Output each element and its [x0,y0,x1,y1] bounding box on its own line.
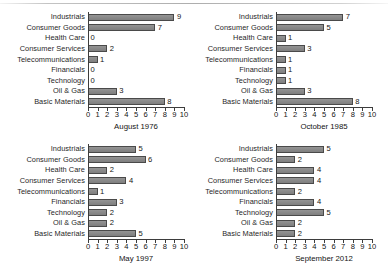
y-axis-line [276,12,277,107]
bar-row: Telecommunications2 [276,186,372,197]
x-tick-label: 9 [172,242,176,251]
category-label: Oil & Gas [53,219,85,227]
bar-value-label: 1 [288,66,292,74]
bar [276,14,343,21]
chart-panel-september-2012: Industrials5Consumer Goods2Health Care4C… [194,132,388,265]
bar [276,230,295,237]
category-label: Basic Materials [222,230,273,238]
bar-value-label: 4 [317,166,321,174]
y-axis-line [276,144,277,239]
bar-row: Health Care4 [276,165,372,176]
bar [88,220,107,227]
x-tick-label: 1 [95,110,99,119]
bar-row: Consumer Goods2 [276,155,372,166]
bar-value-label: 1 [288,34,292,42]
category-label: Financials [51,198,85,206]
bar [88,230,136,237]
category-label: Health Care [45,166,85,174]
x-tick-label: 1 [95,242,99,251]
bar-row: Health Care0 [88,33,184,44]
bar-value-label: 0 [91,66,95,74]
bar [88,98,165,105]
category-label: Consumer Goods [26,156,85,164]
bar [276,98,353,105]
bar [276,188,295,195]
bar [88,56,98,63]
bar-value-label: 2 [298,156,302,164]
bar-value-label: 8 [355,98,359,106]
category-label: Industrials [51,13,85,21]
bar-value-label: 2 [298,230,302,238]
category-label: Oil & Gas [241,87,273,95]
category-label: Health Care [233,166,273,174]
x-tick-label: 5 [322,242,326,251]
category-label: Industrials [51,145,85,153]
bar-row: Oil & Gas3 [276,86,372,97]
x-tick-label: 6 [331,242,335,251]
x-tick-label: 9 [360,110,364,119]
x-tick-label: 3 [115,242,119,251]
x-axis-tick-labels: 012345678910 [88,110,184,120]
bar-row: Consumer Goods5 [276,23,372,34]
bar [276,167,314,174]
bar-row: Consumer Services4 [88,176,184,187]
category-label: Telecommunications [205,188,273,196]
x-tick-label: 5 [134,242,138,251]
category-label: Technology [47,209,85,217]
bar-value-label: 5 [139,230,143,238]
bar-value-label: 5 [327,24,331,32]
x-axis-tick-labels: 012345678910 [276,242,372,252]
bar-value-label: 3 [119,87,123,95]
bar-value-label: 5 [327,209,331,217]
plot-area: Industrials5Consumer Goods2Health Care4C… [276,144,372,239]
chart-grid: Industrials9Consumer Goods7Health Care0C… [0,0,388,265]
bar-value-label: 6 [148,156,152,164]
bar-value-label: 1 [288,77,292,85]
bar-value-label: 8 [167,98,171,106]
x-tick-label: 7 [341,110,345,119]
bar-rows: Industrials9Consumer Goods7Health Care0C… [88,12,184,107]
x-tick-label: 5 [322,110,326,119]
chart-title: September 2012 [276,254,372,264]
bar-value-label: 2 [110,219,114,227]
bar [276,220,295,227]
bar-value-label: 3 [307,45,311,53]
bar-value-label: 2 [110,209,114,217]
bar-row: Industrials5 [276,144,372,155]
bar [88,146,136,153]
x-tick-label: 4 [312,110,316,119]
bar-value-label: 0 [91,34,95,42]
bar [276,177,314,184]
bar [88,167,107,174]
bar-row: Financials1 [276,65,372,76]
chart-panel-august-1976: Industrials9Consumer Goods7Health Care0C… [0,0,194,132]
x-tick-label: 4 [124,242,128,251]
bar [88,88,117,95]
x-tick-label: 6 [331,110,335,119]
x-tick-label: 8 [351,110,355,119]
category-label: Technology [235,209,273,217]
bar-value-label: 1 [100,188,104,196]
bar [276,199,314,206]
category-label: Telecommunications [17,188,85,196]
bar-value-label: 4 [129,177,133,185]
bar [88,14,174,21]
category-label: Telecommunications [17,56,85,64]
bar-value-label: 1 [100,56,104,64]
bar [276,146,324,153]
category-label: Financials [51,66,85,74]
bar-row: Consumer Goods7 [88,23,184,34]
category-label: Basic Materials [222,98,273,106]
x-tick-label: 1 [283,110,287,119]
bar-rows: Industrials5Consumer Goods2Health Care4C… [276,144,372,239]
bar-rows: Industrials7Consumer Goods5Health Care1C… [276,12,372,107]
bar-value-label: 5 [139,145,143,153]
bar-row: Health Care1 [276,33,372,44]
x-tick-label: 3 [303,242,307,251]
x-tick-label: 0 [86,110,90,119]
x-tick-label: 8 [163,242,167,251]
bar-value-label: 2 [298,188,302,196]
x-tick-label: 2 [105,110,109,119]
category-label: Technology [235,77,273,85]
bar [88,177,126,184]
